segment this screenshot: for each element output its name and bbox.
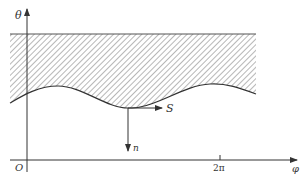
tangent-vector-label: S xyxy=(166,102,174,115)
hatched-region xyxy=(10,34,256,110)
theta-axis-label: θ xyxy=(15,9,22,22)
diagram-canvas: θ φ O 2π n S xyxy=(0,0,304,187)
normal-vector-label: n xyxy=(133,143,139,153)
phi-axis-label: φ xyxy=(292,163,299,174)
origin-label: O xyxy=(15,162,23,173)
two-pi-label: 2π xyxy=(213,163,225,173)
